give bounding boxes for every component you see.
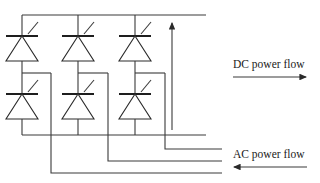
thyristor-lower-3 xyxy=(119,94,151,119)
thyristor-lower-1 xyxy=(6,94,38,119)
thyristor-upper-3 xyxy=(119,36,151,61)
thyristor-upper-2 xyxy=(62,36,94,61)
gate-lead xyxy=(28,22,38,34)
ac-phase-line-1 xyxy=(51,73,222,173)
thyristor-lower-2 xyxy=(62,94,94,119)
dc-power-flow-label: DC power flow xyxy=(233,58,305,70)
thyristor-upper-1 xyxy=(6,36,38,61)
ac-power-flow-label: AC power flow xyxy=(233,148,305,160)
bridge-leg-3 xyxy=(119,15,222,149)
ac-phase-line-3 xyxy=(165,73,222,149)
